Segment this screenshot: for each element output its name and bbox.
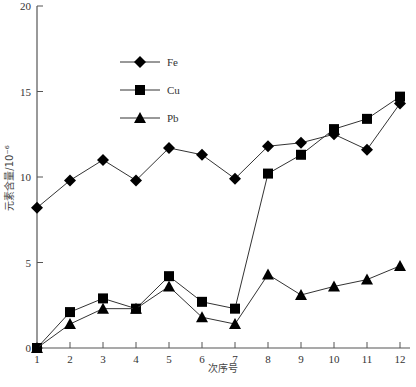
x-tick-label: 9 [298, 353, 304, 365]
y-tick-label: 0 [26, 342, 32, 354]
x-tick-label: 3 [100, 353, 106, 365]
series-line [37, 103, 400, 207]
series-cu [32, 92, 405, 353]
data-point-triangle [64, 318, 76, 329]
y-tick-label: 20 [20, 0, 32, 12]
data-point-square [197, 297, 207, 307]
data-point-square [230, 304, 240, 314]
legend-label: Cu [167, 84, 180, 96]
x-tick-label: 1 [34, 353, 40, 365]
series-line [37, 266, 400, 348]
data-point-diamond [361, 144, 373, 156]
x-axis-title: 次序号 [208, 362, 238, 374]
data-point-diamond [64, 174, 76, 186]
data-point-diamond [97, 154, 109, 166]
x-tick-label: 4 [133, 353, 139, 365]
x-tick-label: 12 [395, 353, 406, 365]
axes: 05101520123456789101112 [20, 0, 410, 365]
legend: FeCuPb [120, 56, 180, 124]
legend-label: Pb [167, 112, 179, 124]
y-axis-title: 元素含量/10⁻⁶ [3, 145, 15, 210]
line-chart: 05101520123456789101112 FeCuPb 次序号 元素含量/… [0, 0, 416, 387]
x-tick-label: 10 [329, 353, 341, 365]
data-point-square [263, 169, 273, 179]
data-point-diamond [196, 149, 208, 161]
x-tick-label: 11 [362, 353, 373, 365]
y-tick-label: 15 [20, 86, 32, 98]
data-point-square [164, 271, 174, 281]
data-point-diamond [31, 202, 43, 214]
data-point-square [329, 124, 339, 134]
series-fe [31, 97, 406, 213]
x-tick-label: 5 [166, 353, 172, 365]
x-tick-label: 2 [67, 353, 73, 365]
data-point-square [98, 293, 108, 303]
data-point-diamond [295, 137, 307, 149]
data-point-square [296, 150, 306, 160]
x-tick-label: 6 [199, 353, 205, 365]
legend-marker-diamond [134, 56, 146, 68]
legend-item-pb: Pb [120, 112, 179, 124]
y-tick-label: 5 [26, 257, 32, 269]
series-pb [31, 260, 406, 353]
data-point-triangle [295, 289, 307, 300]
data-point-triangle [361, 274, 373, 285]
series-line [37, 97, 400, 348]
legend-item-cu: Cu [120, 84, 180, 96]
data-point-triangle [262, 268, 274, 279]
series-group [31, 92, 406, 353]
data-point-triangle [163, 280, 175, 291]
data-point-square [362, 114, 372, 124]
legend-marker-square [135, 85, 145, 95]
legend-label: Fe [167, 56, 178, 68]
data-point-triangle [394, 260, 406, 271]
y-tick-label: 10 [20, 171, 32, 183]
data-point-square [395, 92, 405, 102]
legend-item-fe: Fe [120, 56, 178, 68]
x-tick-label: 8 [265, 353, 271, 365]
data-point-square [65, 307, 75, 317]
